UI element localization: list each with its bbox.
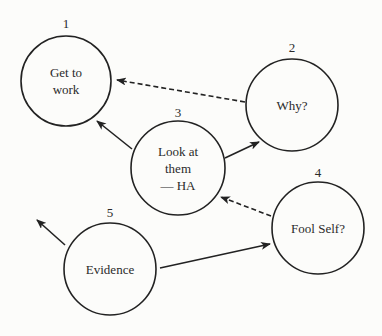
arrow-2-to-1	[117, 80, 245, 102]
node-number: 3	[175, 105, 182, 120]
arrow-3-to-1	[97, 121, 132, 149]
arrow-5-to-4	[160, 244, 270, 268]
node-label-line: Get to	[50, 65, 82, 80]
node-label-line: Look at	[158, 144, 198, 159]
arrow-4-to-3	[221, 197, 271, 216]
node-number: 1	[63, 16, 70, 31]
node-label-line: work	[53, 82, 80, 97]
nodes-layer: 1Get towork2Why?3Look atthem— HA4Fool Se…	[21, 16, 364, 315]
arrow-5-to-outside	[37, 220, 65, 245]
node-label-line: Why?	[276, 98, 307, 113]
node-label-line: Evidence	[86, 262, 135, 277]
node-label-line: — HA	[159, 178, 196, 193]
node-3: 3Look atthem— HA	[131, 105, 225, 215]
node-circle	[21, 36, 111, 126]
node-4: 4Fool Self?	[272, 165, 364, 274]
flow-diagram: 1Get towork2Why?3Look atthem— HA4Fool Se…	[0, 0, 382, 336]
node-number: 2	[289, 40, 296, 55]
node-1: 1Get towork	[21, 16, 111, 126]
arrow-3-to-2	[225, 142, 259, 158]
diagram-canvas: 1Get towork2Why?3Look atthem— HA4Fool Se…	[0, 0, 382, 336]
edges-layer	[37, 80, 271, 268]
node-5: 5Evidence	[64, 205, 156, 315]
node-2: 2Why?	[246, 40, 338, 151]
node-label-line: Fool Self?	[291, 221, 345, 236]
node-number: 5	[107, 205, 114, 220]
node-number: 4	[315, 165, 322, 180]
node-label-line: them	[165, 161, 191, 176]
